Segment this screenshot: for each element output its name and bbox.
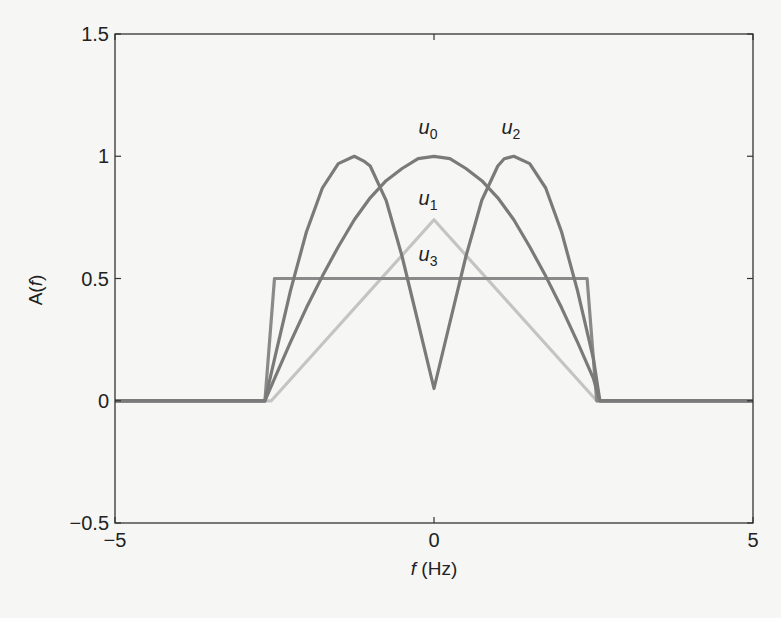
y-tick-label: 0.5 xyxy=(81,268,109,290)
series-line-u1 xyxy=(115,220,753,401)
x-tick-label: 5 xyxy=(747,529,758,551)
x-tick-label: 0 xyxy=(428,529,439,551)
chart: −505−0.500.511.5 f (Hz) A(f) u0u1u2u3 xyxy=(0,0,781,618)
series-label-u1: u1 xyxy=(419,187,438,213)
tick-labels: −505−0.500.511.5 xyxy=(70,23,759,551)
series-label-u3: u3 xyxy=(419,243,438,269)
x-axis-label: f (Hz) xyxy=(411,558,457,579)
series-label-u2: u2 xyxy=(501,116,520,142)
plot-area xyxy=(115,156,753,400)
series-label-u0: u0 xyxy=(419,116,438,142)
y-tick-label: 0 xyxy=(98,390,109,412)
x-axis-label-unit: (Hz) xyxy=(416,558,457,579)
y-tick-label: 1 xyxy=(98,145,109,167)
y-tick-label: 1.5 xyxy=(81,23,109,45)
y-tick-label: −0.5 xyxy=(70,512,109,534)
y-axis-label: A(f) xyxy=(25,275,46,306)
